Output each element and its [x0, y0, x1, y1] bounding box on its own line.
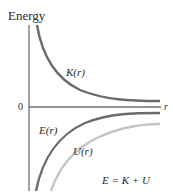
kinetic-energy-curve: [37, 25, 160, 101]
total-energy-label: E(r): [38, 124, 58, 137]
x-axis-label: r: [164, 101, 168, 112]
potential-energy-label: U(r): [73, 145, 93, 158]
energy-diagram: Energy r 0 K(r) E(r) U(r) E = K + U: [0, 0, 173, 193]
origin-label: 0: [18, 101, 23, 112]
y-axis-label: Energy: [8, 8, 46, 23]
equation-label: E = K + U: [101, 174, 151, 186]
kinetic-energy-label: K(r): [65, 66, 85, 79]
